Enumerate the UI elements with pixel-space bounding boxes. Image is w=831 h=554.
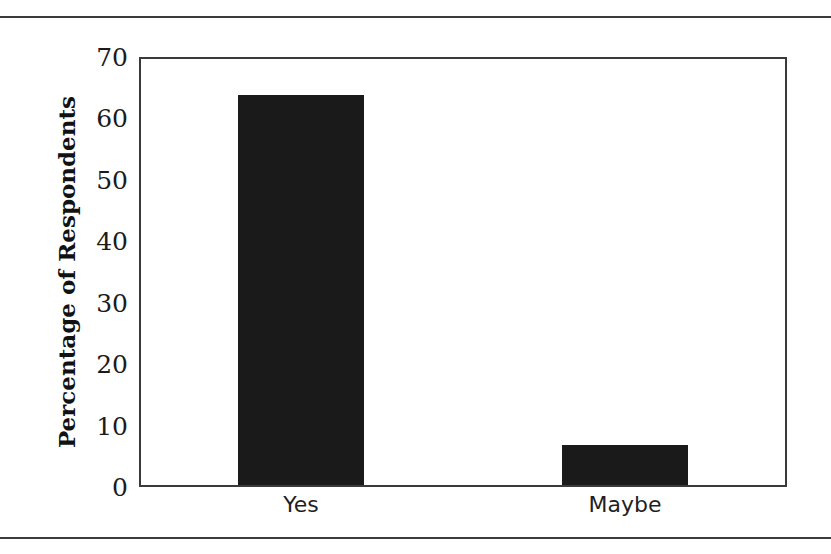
y-tick-label: 30 xyxy=(96,290,128,315)
y-tick-label: 60 xyxy=(96,106,128,131)
figure-container: Percentage of Respondents 01020304050607… xyxy=(0,0,831,554)
plot-area xyxy=(139,57,787,487)
y-tick-label: 0 xyxy=(112,475,128,500)
figure-bottom-rule xyxy=(0,537,831,539)
y-tick-label: 50 xyxy=(96,167,128,192)
figure-top-rule xyxy=(0,16,831,18)
y-tick-label: 70 xyxy=(96,45,128,70)
x-tick-label-yes: Yes xyxy=(283,494,319,516)
y-tick-label: 10 xyxy=(96,413,128,438)
y-tick-label: 40 xyxy=(96,229,128,254)
bar-maybe xyxy=(562,445,688,485)
y-tick-label: 20 xyxy=(96,352,128,377)
y-axis-tick-labels: 010203040506070 xyxy=(70,57,128,487)
bar-yes xyxy=(238,95,364,485)
x-tick-label-maybe: Maybe xyxy=(589,494,662,516)
